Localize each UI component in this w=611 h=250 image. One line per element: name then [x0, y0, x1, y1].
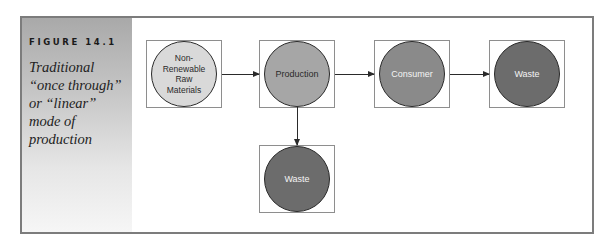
consumer-circle: Consumer: [379, 41, 445, 107]
node-waste-production: Waste: [259, 145, 335, 213]
node-production: Production: [259, 40, 335, 108]
figure-caption: Traditional “once through” or “linear” m…: [29, 58, 129, 148]
node-consumer: Consumer: [374, 40, 450, 108]
production-circle: Production: [264, 41, 330, 107]
waste-production-circle: Waste: [264, 146, 330, 212]
arrow-production-to-consumer: [335, 74, 374, 75]
node-waste-consumer: Waste: [489, 40, 565, 108]
raw-materials-circle: Non-Renewable Raw Materials: [151, 41, 217, 107]
arrow-raw-to-production: [222, 74, 259, 75]
arrow-consumer-to-waste: [450, 74, 489, 75]
waste-consumer-circle: Waste: [494, 41, 560, 107]
figure-sidebar: FIGURE 14.1 Traditional “once through” o…: [22, 18, 132, 232]
node-raw-materials: Non-Renewable Raw Materials: [146, 40, 222, 108]
arrow-production-to-waste: [297, 107, 298, 145]
figure-label: FIGURE 14.1: [29, 37, 117, 47]
